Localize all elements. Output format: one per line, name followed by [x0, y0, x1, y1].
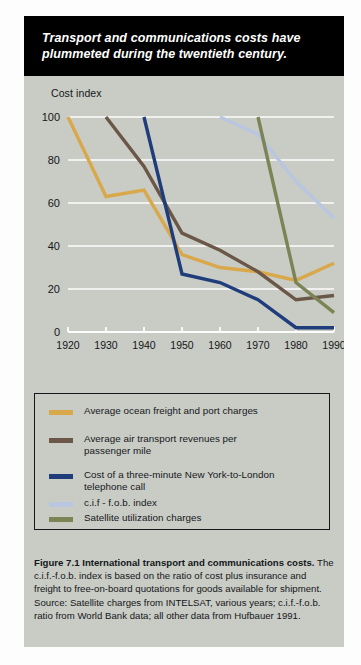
legend-swatch-satellite [49, 517, 73, 522]
chart-legend: Average ocean freight and port chargesAv… [34, 393, 330, 530]
page-margin-right [344, 0, 361, 665]
x-tick-label-1970: 1970 [246, 339, 270, 351]
figure-caption: Figure 7.1 International transport and c… [34, 556, 334, 622]
x-tick-label-1950: 1950 [170, 339, 194, 351]
y-tick-label-40: 40 [48, 240, 60, 252]
legend-item-4: Satellite utilization charges [49, 512, 319, 524]
legend-item-1: Average air transport revenues perpassen… [49, 433, 319, 458]
series-line-1 [106, 117, 334, 300]
page-margin-bottom [0, 647, 361, 665]
y-tick-label-20: 20 [48, 283, 60, 295]
y-tick-label-100: 100 [42, 111, 60, 123]
legend-label-0: Average ocean freight and port charges [84, 405, 258, 417]
x-tick-label-1990: 1990 [322, 339, 344, 351]
line-chart-svg: 0204060801001920193019401950196019701980… [24, 76, 344, 376]
figure-page: Transport and communications costs have … [0, 0, 361, 665]
legend-item-0: Average ocean freight and port charges [49, 405, 319, 417]
legend-swatch-ocean_freight [49, 410, 73, 415]
x-tick-label-1960: 1960 [208, 339, 232, 351]
page-margin-left [0, 0, 24, 665]
y-tick-label-0: 0 [54, 326, 60, 338]
y-tick-label-80: 80 [48, 154, 60, 166]
x-tick-label-1980: 1980 [284, 339, 308, 351]
legend-item-2: Cost of a three-minute New York-to-Londo… [49, 469, 319, 494]
legend-swatch-telephone [49, 474, 73, 479]
series-line-0 [68, 117, 334, 280]
legend-swatch-cif_fob [49, 502, 73, 507]
title-line-1: Transport and communications costs have [42, 30, 326, 46]
x-tick-label-1940: 1940 [132, 339, 156, 351]
chart-plot-area: Cost index 02040608010019201930194019501… [24, 76, 344, 376]
page-margin-top [0, 0, 361, 16]
legend-label-1: Average air transport revenues perpassen… [84, 433, 237, 458]
legend-label-2: Cost of a three-minute New York-to-Londo… [84, 469, 274, 494]
title-line-2: plummeted during the twentieth century. [42, 46, 326, 62]
legend-item-3: c.i.f - f.o.b. index [49, 497, 319, 509]
title-banner: Transport and communications costs have … [24, 16, 344, 76]
legend-swatch-air_transport [49, 438, 73, 443]
y-tick-label-60: 60 [48, 197, 60, 209]
legend-label-4: Satellite utilization charges [84, 512, 201, 524]
caption-lead: Figure 7.1 International transport and c… [34, 557, 315, 568]
x-tick-label-1930: 1930 [94, 339, 118, 351]
legend-label-3: c.i.f - f.o.b. index [84, 497, 157, 509]
x-tick-label-1920: 1920 [56, 339, 80, 351]
series-line-2 [144, 117, 334, 328]
